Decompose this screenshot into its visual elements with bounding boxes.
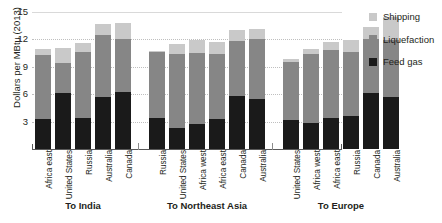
- bar-segment-feed-gas: [95, 97, 111, 149]
- bar-segment-liquefaction: [229, 41, 245, 96]
- bar: [283, 59, 299, 149]
- bar-segment-feed-gas: [169, 128, 185, 149]
- stacked-bar-chart: Dollars per MBtu (2013) 3691215 Africa e…: [0, 0, 442, 223]
- bar: [75, 43, 91, 149]
- x-category-label: Australia: [106, 150, 114, 182]
- x-category-label: Russia: [86, 150, 94, 175]
- bar-segment-liquefaction: [343, 52, 359, 116]
- bar-segment-shipping: [343, 40, 359, 52]
- x-category-label: Canada: [126, 150, 134, 179]
- bar-series-container: [32, 12, 342, 149]
- bar: [55, 48, 71, 149]
- bar-segment-feed-gas: [209, 119, 225, 149]
- y-tick-label-15: 15: [17, 7, 28, 17]
- bar-segment-liquefaction: [35, 55, 51, 119]
- plot-area: 3691215: [32, 12, 342, 149]
- bar-segment-shipping: [55, 48, 71, 64]
- bar-segment-feed-gas: [383, 97, 399, 149]
- bar-segment-liquefaction: [55, 63, 71, 93]
- bar: [209, 42, 225, 149]
- bar-segment-liquefaction: [95, 35, 111, 97]
- bar-segment-liquefaction: [189, 53, 205, 124]
- bar: [95, 24, 111, 149]
- bar-segment-shipping: [75, 43, 91, 52]
- y-tick-label-3: 3: [23, 117, 28, 127]
- bar: [149, 51, 165, 149]
- x-category-label: Russia: [160, 150, 168, 175]
- bar-segment-liquefaction: [283, 62, 299, 120]
- y-axis-title: Dollars per MBtu (2013): [11, 0, 22, 118]
- x-category-label: Africa east: [46, 150, 54, 189]
- x-category-label: Africa east: [334, 150, 342, 189]
- x-category-label: Canada: [374, 150, 382, 179]
- legend-label: Shipping: [383, 12, 420, 22]
- bar-segment-shipping: [169, 44, 185, 54]
- x-category-label: Africa west: [314, 150, 322, 190]
- group-label: To India: [65, 200, 101, 211]
- bar-segment-feed-gas: [229, 96, 245, 149]
- bar-segment-liquefaction: [323, 50, 339, 118]
- bar-segment-liquefaction: [303, 54, 319, 123]
- bar-segment-feed-gas: [283, 120, 299, 149]
- legend-item: Liquefaction: [369, 35, 434, 45]
- bar-segment-shipping: [323, 42, 339, 50]
- bar-segment-feed-gas: [149, 118, 165, 149]
- bar-segment-shipping: [229, 30, 245, 41]
- bar-segment-liquefaction: [209, 54, 225, 119]
- legend-label: Liquefaction: [383, 35, 434, 45]
- group-separator: [272, 143, 273, 150]
- bar-segment-shipping: [189, 40, 205, 53]
- bar: [229, 30, 245, 149]
- bar: [249, 29, 265, 149]
- bar: [343, 40, 359, 149]
- bar-segment-feed-gas: [249, 99, 265, 149]
- bar: [303, 49, 319, 149]
- x-category-label: Africa east: [220, 150, 228, 189]
- x-category-label: United States: [66, 150, 74, 199]
- bar-segment-feed-gas: [35, 119, 51, 149]
- bar: [189, 40, 205, 149]
- legend-item: Feed gas: [369, 57, 434, 67]
- bar: [169, 44, 185, 149]
- x-category-label: United States: [180, 150, 188, 199]
- group-separator: [138, 143, 139, 150]
- bar-segment-feed-gas: [323, 118, 339, 149]
- bar-segment-shipping: [115, 23, 131, 39]
- bar-segment-feed-gas: [75, 118, 91, 149]
- bar-segment-feed-gas: [115, 92, 131, 149]
- x-category-label: Russia: [354, 150, 362, 175]
- bar-segment-liquefaction: [75, 52, 91, 118]
- bar-segment-liquefaction: [115, 39, 131, 93]
- legend: ShippingLiquefactionFeed gas: [369, 12, 434, 80]
- bar-segment-shipping: [249, 29, 265, 39]
- bar-segment-feed-gas: [343, 116, 359, 149]
- group-label: To Northeast Asia: [167, 200, 247, 211]
- bar: [323, 42, 339, 149]
- bar: [35, 49, 51, 149]
- legend-swatch-icon: [369, 13, 377, 21]
- legend-swatch-icon: [369, 35, 377, 43]
- bar-segment-shipping: [95, 24, 111, 35]
- y-tick-label-9: 9: [23, 62, 28, 72]
- x-category-label: Canada: [240, 150, 248, 179]
- x-category-label: Africa west: [200, 150, 208, 190]
- bar-segment-liquefaction: [149, 52, 165, 118]
- x-category-label: Australia: [394, 150, 402, 182]
- bar-segment-shipping: [209, 42, 225, 54]
- bar-segment-feed-gas: [189, 124, 205, 149]
- bar-segment-feed-gas: [303, 123, 319, 149]
- x-axis-category-labels: Africa eastUnited StatesRussiaAustraliaC…: [32, 150, 342, 196]
- bar-segment-feed-gas: [363, 93, 379, 149]
- bar-segment-liquefaction: [169, 54, 185, 128]
- x-category-label: United States: [294, 150, 302, 199]
- legend-swatch-icon: [369, 58, 377, 66]
- bar-segment-feed-gas: [55, 93, 71, 149]
- legend-label: Feed gas: [383, 57, 423, 67]
- x-category-label: Australia: [260, 150, 268, 182]
- y-tick-label-6: 6: [23, 89, 28, 99]
- group-label: To Europe: [318, 200, 364, 211]
- bar-segment-liquefaction: [249, 39, 265, 98]
- legend-item: Shipping: [369, 12, 434, 22]
- bar: [115, 23, 131, 149]
- y-tick-label-12: 12: [17, 35, 28, 45]
